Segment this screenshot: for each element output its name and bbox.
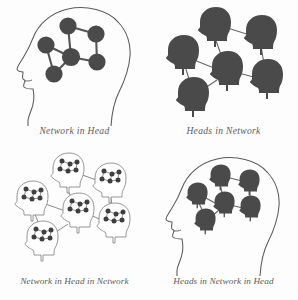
head-silhouette-node xyxy=(239,195,260,221)
network-node xyxy=(62,48,80,66)
panel-caption: Network in Head xyxy=(0,126,149,137)
head-silhouette-node xyxy=(238,169,259,195)
head-silhouette-node xyxy=(213,191,234,217)
panel-caption: Heads in Network xyxy=(149,126,298,137)
outlined-head-node xyxy=(25,221,58,261)
head-nodes xyxy=(186,164,260,234)
network-node xyxy=(87,25,104,42)
outlined-head-node xyxy=(93,163,126,203)
network-in-head-in-network-art xyxy=(0,150,149,276)
panel-caption: Network in Head in Network xyxy=(0,276,149,287)
head-outline-back xyxy=(111,22,130,126)
outlined-head-nodes xyxy=(15,153,130,261)
head-silhouette-node xyxy=(210,51,243,91)
heads-in-network-in-head-art xyxy=(149,150,298,276)
lip-detail xyxy=(174,230,181,231)
head-silhouette-node xyxy=(194,208,215,234)
lip-detail xyxy=(25,80,32,81)
head-silhouette-node xyxy=(209,164,230,190)
network-node xyxy=(59,17,76,34)
head-silhouette-node xyxy=(250,59,283,99)
head-nodes xyxy=(166,7,283,117)
panel-heads-in-network-in-head: Heads in Network in Head xyxy=(149,150,298,300)
network-node xyxy=(88,53,105,70)
head-silhouette-node xyxy=(198,7,231,47)
head-silhouette-node xyxy=(166,35,199,75)
head-silhouette-node xyxy=(186,182,207,208)
head-silhouette-node xyxy=(176,77,209,117)
outlined-head-node xyxy=(15,181,48,221)
network-in-head-art xyxy=(0,0,149,126)
head-silhouette-node xyxy=(244,15,277,55)
panel-network-in-head-in-network: Network in Head in Network xyxy=(0,150,149,300)
network-node xyxy=(37,36,54,53)
outlined-head-node xyxy=(97,203,130,243)
heads-in-network-art xyxy=(149,0,298,126)
network-node xyxy=(45,65,62,82)
panel-caption: Heads in Network in Head xyxy=(149,276,298,287)
outlined-head-node xyxy=(61,193,94,233)
figure-grid: Network in Head xyxy=(0,0,298,300)
panel-network-in-head: Network in Head xyxy=(0,0,149,150)
outlined-head-node xyxy=(51,153,84,193)
panel-heads-in-network: Heads in Network xyxy=(149,0,298,150)
head-outline-back xyxy=(260,172,279,276)
network-nodes xyxy=(37,17,105,82)
